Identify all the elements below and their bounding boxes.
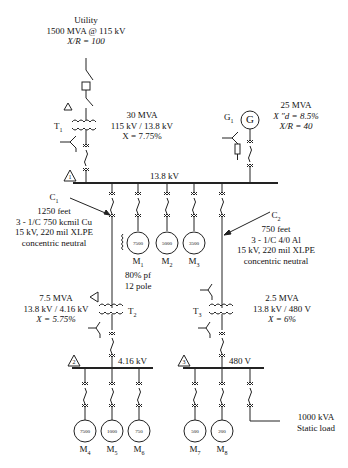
delta-winding-icon	[64, 103, 72, 110]
m5-sub: 5	[115, 450, 118, 456]
t1-voltage: 115 kV / 13.8 kV	[100, 121, 184, 132]
m3-hp: 3500	[184, 239, 204, 250]
t2-tag-sub: 2	[134, 312, 137, 318]
t2-label: 7.5 MVA 13.8 kV / 4.16 kV X = 5.75%	[16, 293, 96, 325]
ground-icon	[60, 136, 76, 152]
c1-conductor: 3 - 1/C 750 kcmil Cu	[6, 217, 102, 228]
m4-hp: 7500	[75, 427, 95, 438]
t1-rating: 30 MVA	[100, 110, 184, 121]
c2-length: 750 feet	[228, 224, 324, 235]
t3-rating: 2.5 MVA	[242, 293, 322, 304]
m2-hp: 5000	[157, 239, 177, 250]
m7-sub: 7	[198, 450, 201, 456]
t3-label: 2.5 MVA 13.8 kV / 480 V X = 6%	[242, 293, 322, 325]
utility-label: Utility 1500 MVA @ 115 kV X/R = 100	[46, 15, 126, 47]
m1-label: M1 80% pf 12 pole	[118, 256, 158, 291]
t3-voltage: 13.8 kV / 480 V	[242, 304, 322, 315]
m2-sub: 2	[170, 262, 173, 268]
m6-tag: M	[133, 444, 141, 454]
bus3-marker-num: 3	[181, 357, 187, 368]
m4-sub: 4	[88, 450, 91, 456]
c2-label: C2 750 feet 3 - 1/C 4/0 Al 15 kV, 220 mi…	[228, 210, 324, 266]
bus1-label: 13.8 kV	[150, 171, 179, 182]
g1-xr: X/R = 40	[264, 121, 328, 132]
c2-neutral: concentric neutral	[228, 256, 324, 267]
m8-tag: M	[216, 444, 224, 454]
utility-rating: 1500 MVA @ 115 kV	[46, 26, 126, 37]
t3-tag-sub: 3	[199, 312, 202, 318]
g1-tag: G1	[224, 112, 234, 126]
t3-tag: T3	[193, 306, 202, 320]
m1-hp: 7500	[128, 239, 148, 250]
c1-neutral: concentric neutral	[6, 238, 102, 249]
m4-tag: M	[79, 444, 87, 454]
m5-label: M5	[102, 444, 122, 458]
m2-tag: M	[161, 256, 169, 266]
c1-label: C1 1250 feet 3 - 1/C 750 kcmil Cu 15 kV,…	[6, 192, 102, 248]
g1-tag-sub: 1	[231, 118, 234, 124]
c2-insulation: 15 kV, 220 mil XLPE	[228, 245, 324, 256]
c2-conductor: 3 - 1/C 4/0 Al	[228, 235, 324, 246]
breaker-icon	[82, 82, 90, 90]
m6-hp: 750	[129, 427, 149, 438]
m8-label: M8	[212, 444, 232, 458]
m2-label: M2	[157, 256, 177, 270]
t1-impedance: X = 7.75%	[100, 131, 184, 142]
m7-hp: 500	[185, 427, 205, 438]
static-load-type: Static load	[286, 423, 346, 434]
t1-label: 30 MVA 115 kV / 13.8 kV X = 7.75%	[100, 110, 184, 142]
g1-rating: 25 MVA	[264, 100, 328, 111]
m7-label: M7	[185, 444, 205, 458]
c2-tag-sub: 2	[278, 216, 281, 222]
m1-sub: 1	[141, 262, 144, 268]
m3-tag: M	[188, 256, 196, 266]
bus2-label: 4.16 kV	[118, 356, 147, 367]
t2-voltage: 13.8 kV / 4.16 kV	[16, 304, 96, 315]
m3-label: M3	[184, 256, 204, 270]
t2-impedance: X = 5.75%	[16, 314, 96, 325]
t1-tag: T1	[54, 121, 63, 135]
t2-rating: 7.5 MVA	[16, 293, 96, 304]
utility-xr: X/R = 100	[46, 36, 126, 47]
t1-tag-sub: 1	[60, 127, 63, 133]
m8-hp: 200	[212, 427, 232, 438]
m3-sub: 3	[197, 262, 200, 268]
static-load-label: 1000 kVA Static load	[286, 412, 346, 433]
drawout-breaker-icon	[83, 140, 89, 183]
m7-tag: M	[189, 444, 197, 454]
m6-sub: 6	[142, 450, 145, 456]
c1-insulation: 15 kV, 220 mil XLPE	[6, 227, 102, 238]
bus1-marker-num: 1	[67, 172, 73, 183]
m1-poles: 12 pole	[118, 281, 158, 292]
c1-tag: C1	[6, 192, 102, 206]
m5-hp: 1000	[102, 427, 122, 438]
c1-length: 1250 feet	[6, 206, 102, 217]
utility-feed	[82, 58, 93, 116]
m5-tag: M	[106, 444, 114, 454]
c2-tag: C2	[228, 210, 324, 224]
g1-label: 25 MVA X ″d = 8.5% X/R = 40	[264, 100, 328, 132]
g1-symbol: G	[244, 114, 256, 125]
m6-label: M6	[129, 444, 149, 458]
bus3-label: 480 V	[229, 356, 251, 367]
m1-tag: M	[132, 256, 140, 266]
c1-tag-sub: 1	[56, 198, 59, 204]
t3-impedance: X = 6%	[242, 314, 322, 325]
t2-tag: T2	[128, 306, 137, 320]
bus2-marker-num: 2	[71, 357, 77, 368]
utility-name: Utility	[46, 15, 126, 26]
static-load-rating: 1000 kVA	[286, 412, 346, 423]
g1-xd: X ″d = 8.5%	[264, 111, 328, 122]
m1-pf: 80% pf	[118, 270, 158, 281]
m4-label: M4	[75, 444, 95, 458]
m8-sub: 8	[225, 450, 228, 456]
